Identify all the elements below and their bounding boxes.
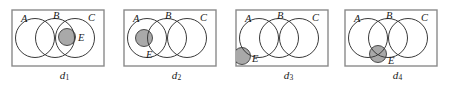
panel-d2-caption: d2 [120,70,233,82]
set-label-e: E [251,53,259,64]
panel-d2: ABCEd2 [120,0,233,91]
panel-d4: ABCEd4 [341,0,451,91]
set-label-c: C [421,12,429,23]
panel-d2-canvas: ABCE [120,0,220,70]
set-label-c: C [312,12,320,23]
panel-d4-canvas: ABCE [341,0,441,70]
set-label-e: E [77,32,85,43]
set-label-e: E [387,55,395,66]
set-label-e: E [145,49,153,60]
panel-d1-canvas: ABCE [8,0,108,70]
set-label-a: A [353,13,361,24]
shaded-circle-e [136,30,153,47]
set-label-b: B [386,10,393,21]
set-label-a: A [132,13,140,24]
set-label-b: B [165,10,172,21]
set-label-c: C [200,12,208,23]
set-label-b: B [53,10,60,21]
panel-d3-caption: d3 [232,70,345,82]
set-label-c: C [88,12,96,23]
panel-d1-caption: d1 [8,70,121,82]
panel-d3: ABCEd3 [232,0,345,91]
panel-d4-caption: d4 [341,70,451,82]
panel-d3-canvas: ABCE [232,0,332,70]
caption-subscript: 1 [65,73,69,82]
set-label-b: B [277,10,284,21]
shaded-circle-e [234,48,251,65]
shaded-circle-e [370,46,387,63]
set-label-a: A [244,13,252,24]
caption-subscript: 4 [398,73,402,82]
venn-diagram-figure: ABCEd1ABCEd2ABCEd3ABCEd4 [0,0,451,91]
set-label-a: A [20,13,28,24]
panel-d1: ABCEd1 [8,0,121,91]
caption-subscript: 3 [289,73,293,82]
caption-subscript: 2 [177,73,181,82]
